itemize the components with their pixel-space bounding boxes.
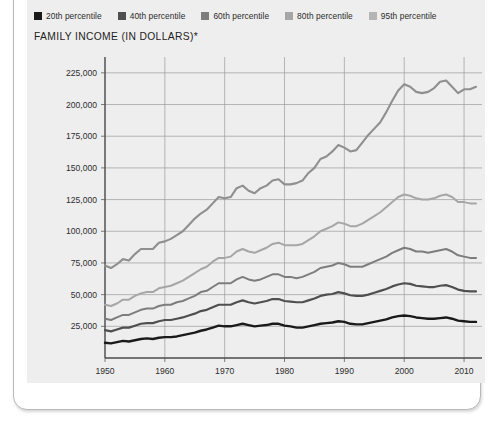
series-line — [105, 283, 476, 331]
y-tick-label: 125,000 — [66, 195, 97, 205]
legend-swatch-95th — [369, 12, 377, 20]
chart-title: FAMILY INCOME (IN DOLLARS)* — [34, 31, 198, 42]
x-tick-label: 1970 — [215, 366, 234, 376]
x-tick-label: 1960 — [155, 366, 174, 376]
y-tick-label: 225,000 — [66, 68, 97, 78]
series-line — [105, 316, 476, 344]
y-tick-label: 150,000 — [66, 163, 97, 173]
legend-item-60th: 60th percentile — [201, 11, 269, 21]
y-tick-label: 50,000 — [71, 290, 98, 300]
legend-swatch-80th — [285, 12, 293, 20]
legend-label-60th: 60th percentile — [213, 11, 269, 21]
legend-item-95th: 95th percentile — [369, 11, 437, 21]
y-tick-label: 175,000 — [66, 131, 97, 141]
legend-label-20th: 20th percentile — [46, 11, 102, 21]
legend-item-20th: 20th percentile — [34, 11, 102, 21]
y-tick-label: 25,000 — [71, 321, 98, 331]
x-tick-label: 2000 — [395, 366, 414, 376]
y-tick-label: 200,000 — [66, 100, 97, 110]
series-line — [105, 80, 476, 268]
legend-item-80th: 80th percentile — [285, 11, 353, 21]
y-tick-label: 75,000 — [71, 258, 98, 268]
y-tick-label: 100,000 — [66, 226, 97, 236]
x-tick-label: 2010 — [454, 366, 473, 376]
legend-label-95th: 95th percentile — [381, 11, 437, 21]
x-tick-label: 1950 — [95, 366, 114, 376]
plot-area: 25,00050,00075,000100,000125,000150,0001… — [27, 49, 485, 379]
legend-swatch-40th — [118, 12, 126, 20]
legend-swatch-60th — [201, 12, 209, 20]
x-tick-label: 1980 — [275, 366, 294, 376]
figure-panel: 20th percentile 40th percentile 60th per… — [27, 0, 485, 383]
series-line — [105, 248, 476, 320]
chart-legend: 20th percentile 40th percentile 60th per… — [34, 9, 482, 23]
legend-label-80th: 80th percentile — [297, 11, 353, 21]
chart-card: 20th percentile 40th percentile 60th per… — [13, 0, 481, 410]
series-line — [105, 195, 476, 307]
legend-swatch-20th — [34, 12, 42, 20]
legend-label-40th: 40th percentile — [130, 11, 186, 21]
income-line-chart: 25,00050,00075,000100,000125,000150,0001… — [27, 49, 485, 379]
screenshot-root: 20th percentile 40th percentile 60th per… — [0, 0, 494, 440]
legend-item-40th: 40th percentile — [118, 11, 186, 21]
x-tick-label: 1990 — [335, 366, 354, 376]
